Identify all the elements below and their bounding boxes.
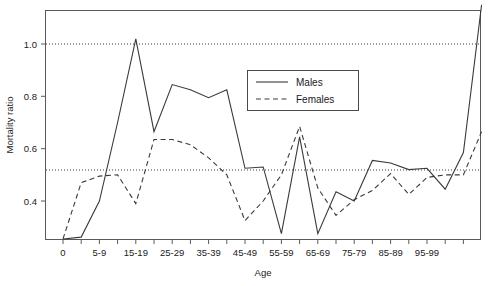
series-line-females bbox=[63, 126, 482, 239]
chart-figure: 1.0 0.8 0.6 0.4 Mortality ratio bbox=[0, 0, 495, 286]
x-tick-label: 45-49 bbox=[233, 247, 257, 258]
x-axis-ticks bbox=[63, 240, 463, 245]
legend-label-females: Females bbox=[296, 94, 334, 105]
mortality-ratio-line-chart: 1.0 0.8 0.6 0.4 Mortality ratio bbox=[0, 0, 495, 286]
y-axis-tick-labels: 1.0 0.8 0.6 0.4 bbox=[24, 39, 37, 207]
y-axis-ticks bbox=[41, 44, 46, 201]
plot-frame bbox=[46, 11, 481, 240]
y-tick-label: 0.8 bbox=[24, 91, 37, 102]
x-tick-label: 25-29 bbox=[160, 247, 184, 258]
x-tick-label: 95-99 bbox=[415, 247, 439, 258]
x-axis-title: Age bbox=[255, 267, 272, 278]
x-tick-label: 0 bbox=[60, 247, 65, 258]
x-tick-label: 15-19 bbox=[124, 247, 148, 258]
y-tick-label: 0.4 bbox=[24, 196, 37, 207]
series-line-males bbox=[63, 5, 482, 239]
x-tick-label: 85-89 bbox=[378, 247, 402, 258]
x-tick-label: 65-69 bbox=[306, 247, 330, 258]
y-tick-label: 0.6 bbox=[24, 143, 37, 154]
x-tick-label: 5-9 bbox=[93, 247, 107, 258]
y-tick-label: 1.0 bbox=[24, 39, 37, 50]
x-axis-tick-labels: 0 5-9 15-19 25-29 35-39 45-49 55-59 65-6… bbox=[60, 247, 439, 258]
legend-label-males: Males bbox=[296, 77, 323, 88]
x-tick-label: 35-39 bbox=[196, 247, 220, 258]
x-tick-label: 55-59 bbox=[269, 247, 293, 258]
y-axis-title: Mortality ratio bbox=[4, 96, 15, 153]
x-tick-label: 75-79 bbox=[342, 247, 366, 258]
chart-legend: Males Females bbox=[248, 71, 359, 111]
